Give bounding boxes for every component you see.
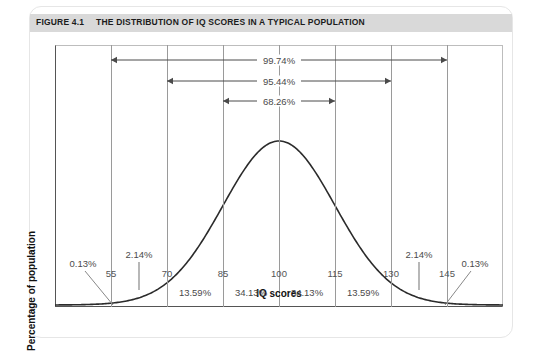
segment-label-5: 13.59% bbox=[347, 287, 379, 298]
segment-label-0: 0.13% bbox=[70, 258, 97, 269]
x-tick-label-130: 130 bbox=[383, 268, 399, 279]
segment-label-2: 13.59% bbox=[179, 287, 211, 298]
range-label-95.44: 95.44% bbox=[258, 76, 300, 87]
x-tick-label-85: 85 bbox=[218, 268, 229, 279]
figure-title: THE DISTRIBUTION OF IQ SCORES IN A TYPIC… bbox=[96, 17, 365, 27]
range-label-99.74: 99.74% bbox=[258, 55, 300, 66]
segment-label-1: 2.14% bbox=[126, 249, 153, 260]
x-tick-label-145: 145 bbox=[439, 268, 455, 279]
x-tick-label-70: 70 bbox=[162, 268, 173, 279]
segment-label-4: 34.13% bbox=[291, 287, 323, 298]
figure-container: FIGURE 4.1 THE DISTRIBUTION OF IQ SCORES… bbox=[0, 0, 544, 363]
segment-label-3: 34.13% bbox=[235, 287, 267, 298]
figure-number-label: FIGURE 4.1 bbox=[36, 17, 84, 27]
segment-label-7: 0.13% bbox=[462, 258, 489, 269]
segment-label-6: 2.14% bbox=[406, 249, 433, 260]
range-label-68.26: 68.26% bbox=[258, 96, 300, 107]
x-tick-label-100: 100 bbox=[271, 268, 287, 279]
x-tick-label-115: 115 bbox=[327, 268, 342, 279]
y-axis-label: Percentage of population bbox=[26, 226, 37, 356]
x-tick-label-55: 55 bbox=[106, 268, 117, 279]
